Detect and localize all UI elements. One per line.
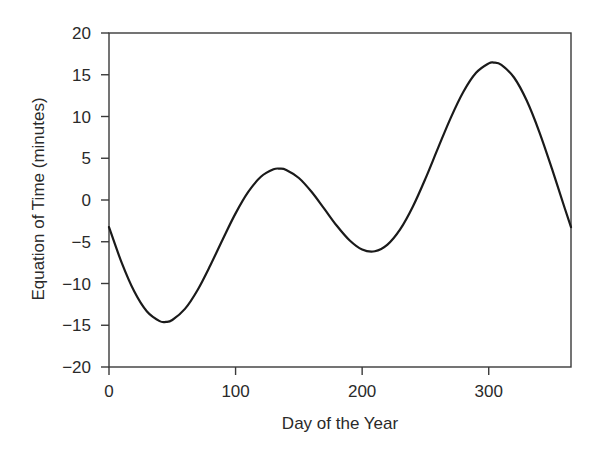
y-tick-label: −5: [72, 233, 91, 252]
y-axis-ticks: 20151050−5−10−15−20: [62, 24, 109, 377]
y-axis-label: Equation of Time (minutes): [29, 97, 48, 300]
plot-border: [109, 33, 571, 367]
x-axis-label: Day of the Year: [282, 414, 399, 433]
x-tick-label: 200: [348, 382, 376, 401]
x-tick-label: 100: [221, 382, 249, 401]
x-axis-ticks: 0100200300: [104, 367, 503, 401]
y-tick-label: 15: [72, 66, 91, 85]
x-tick-label: 0: [104, 382, 113, 401]
y-tick-label: 5: [82, 149, 91, 168]
plot-frame: [109, 33, 571, 367]
y-tick-label: −10: [62, 275, 91, 294]
x-tick-label: 300: [475, 382, 503, 401]
y-tick-label: −20: [62, 358, 91, 377]
equation-of-time-line: [109, 62, 571, 322]
y-tick-label: 0: [82, 191, 91, 210]
y-tick-label: 10: [72, 108, 91, 127]
y-tick-label: −15: [62, 316, 91, 335]
y-tick-label: 20: [72, 24, 91, 43]
equation-of-time-chart: 20151050−5−10−15−20 0100200300 Day of th…: [0, 0, 596, 454]
